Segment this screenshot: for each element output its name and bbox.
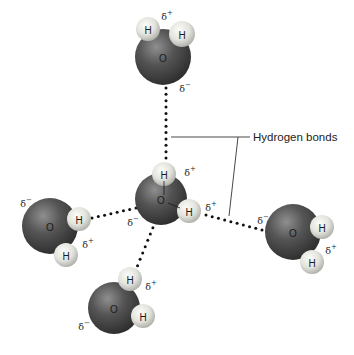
- hydrogen-bonds-label: Hydrogen bonds: [253, 131, 338, 143]
- hydrogen-label: H: [318, 223, 325, 234]
- molecules-layer: [22, 17, 334, 334]
- partial-negative-charge: δ−: [127, 215, 139, 228]
- callout-line-diagonal: [229, 137, 238, 216]
- hydrogen-label: H: [185, 207, 192, 218]
- oxygen-label: O: [46, 222, 54, 233]
- partial-positive-charge: δ+: [184, 165, 196, 178]
- oxygen-label: O: [289, 228, 297, 239]
- partial-negative-charge: δ−: [78, 319, 90, 332]
- partial-positive-charge: δ+: [82, 237, 94, 250]
- hydrogen-label: H: [75, 215, 82, 226]
- oxygen-label: O: [157, 195, 165, 206]
- hydrogen-bond-top-to-center: [165, 87, 168, 160]
- diagram-canvas: OHHδ+δ−OHHδ+δ+δ−OHHδ−δ+OHHδ−δ+OHHδ+δ− Hy…: [0, 0, 354, 355]
- hydrogen-label: H: [178, 30, 185, 41]
- water-hydrogen-bond-diagram: OHHδ+δ−OHHδ+δ+δ−OHHδ−δ+OHHδ−δ+OHHδ+δ− Hy…: [0, 0, 354, 355]
- partial-positive-charge: δ+: [205, 200, 217, 213]
- oxygen-label: O: [110, 304, 118, 315]
- hydrogen-label: H: [144, 25, 151, 36]
- partial-positive-charge: δ+: [161, 9, 173, 22]
- hydrogen-label: H: [308, 258, 315, 269]
- partial-positive-charge: δ+: [145, 279, 157, 292]
- hydrogen-label: H: [160, 170, 167, 181]
- water-molecule-right: [265, 204, 334, 274]
- water-molecule-bottom: [88, 267, 155, 334]
- oxygen-label: O: [159, 53, 167, 64]
- partial-positive-charge: δ+: [325, 243, 337, 256]
- hydrogen-label: H: [62, 251, 69, 262]
- water-molecule-left: [22, 198, 91, 267]
- hydrogen-bond-center-to-right: [205, 214, 264, 232]
- hydrogen-label: H: [139, 312, 146, 323]
- hydrogen-label: H: [126, 275, 133, 286]
- partial-negative-charge: δ−: [179, 81, 191, 94]
